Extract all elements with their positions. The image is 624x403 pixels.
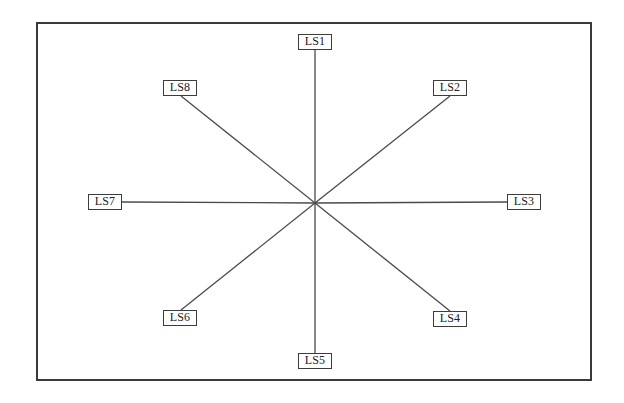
node-label: LS8 bbox=[170, 80, 191, 94]
edge-ls8 bbox=[181, 96, 315, 203]
edge-ls7 bbox=[122, 202, 315, 203]
node-ls6: LS6 bbox=[163, 310, 197, 326]
edge-ls6 bbox=[181, 203, 315, 310]
node-label: LS5 bbox=[305, 353, 326, 367]
edge-ls4 bbox=[315, 203, 450, 311]
node-label: LS1 bbox=[305, 34, 326, 48]
node-label: LS4 bbox=[440, 311, 461, 325]
node-ls7: LS7 bbox=[88, 194, 122, 210]
node-label: LS7 bbox=[95, 194, 116, 208]
edge-ls3 bbox=[315, 202, 507, 203]
node-ls3: LS3 bbox=[507, 194, 541, 210]
node-label: LS3 bbox=[514, 194, 535, 208]
node-label: LS6 bbox=[170, 310, 191, 324]
node-ls2: LS2 bbox=[433, 80, 467, 96]
node-ls1: LS1 bbox=[298, 34, 332, 50]
node-ls4: LS4 bbox=[433, 311, 467, 327]
node-ls5: LS5 bbox=[298, 353, 332, 369]
node-ls8: LS8 bbox=[163, 80, 197, 96]
node-label: LS2 bbox=[440, 80, 461, 94]
edge-ls2 bbox=[315, 96, 450, 203]
